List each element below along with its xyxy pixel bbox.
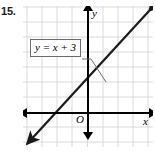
y-axis-label: y [92,8,97,19]
x-axis-label: x [143,116,148,127]
graph-exercise-figure: 15. [0,0,155,152]
x-axis-positive-arrow-icon [149,108,153,118]
origin-label: O [76,114,84,125]
callout-pointer-icon [81,58,111,84]
y-axis-negative-arrow-icon [83,132,93,140]
x-axis-negative-arrow-icon [23,108,27,118]
equation-callout: y = x + 3 [30,39,81,57]
exercise-number: 15. [1,5,16,17]
coordinate-plane: y x O [23,6,153,147]
